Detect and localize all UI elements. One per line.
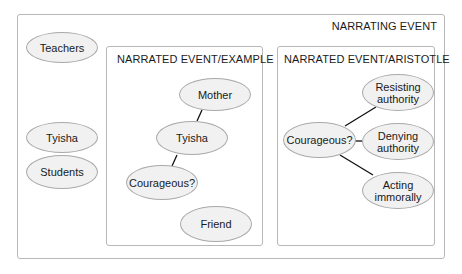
node-denying-authority: Denying authority (362, 123, 434, 160)
node-mother: Mother (179, 78, 251, 111)
node-courageous-example: Courageous? (126, 165, 198, 200)
node-friend: Friend (180, 206, 252, 242)
node-acting-immorally: Acting immorally (362, 172, 434, 209)
node-tyisha-example: Tyisha (156, 121, 228, 155)
node-courageous-aristotle: Courageous? (283, 122, 356, 158)
node-resisting-authority: Resisting authority (362, 74, 434, 111)
